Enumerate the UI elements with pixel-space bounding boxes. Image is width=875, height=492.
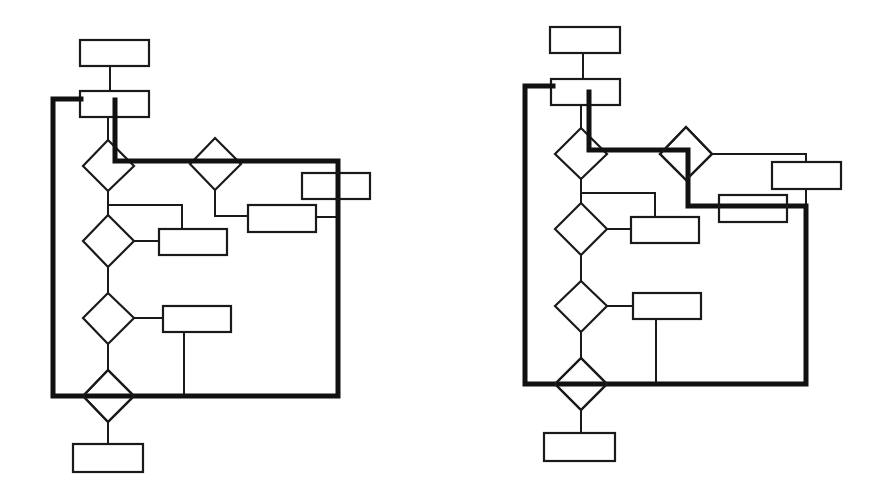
left-decision-4	[83, 293, 134, 344]
left-process-box-5	[163, 306, 231, 332]
right-process-box-2	[551, 79, 620, 105]
left-end-box	[73, 444, 143, 472]
right-decision-4	[555, 281, 607, 332]
left-process-box-4	[248, 205, 316, 232]
right-process-box-6	[772, 162, 841, 189]
right-process-box-5	[633, 293, 701, 319]
right-decision-3	[555, 203, 607, 255]
left-flowchart	[53, 40, 370, 472]
right-flowchart	[525, 27, 841, 461]
left-start-box	[80, 40, 149, 66]
left-process-box-3	[159, 229, 227, 255]
right-decision-1	[555, 128, 607, 179]
left-decision-3	[83, 215, 134, 267]
right-process-box-3	[631, 217, 699, 243]
right-start-box	[550, 27, 620, 53]
right-end-box	[544, 433, 615, 461]
flowchart-figure	[0, 0, 875, 492]
left-decision-2	[190, 138, 241, 190]
left-decision-1	[83, 140, 134, 191]
